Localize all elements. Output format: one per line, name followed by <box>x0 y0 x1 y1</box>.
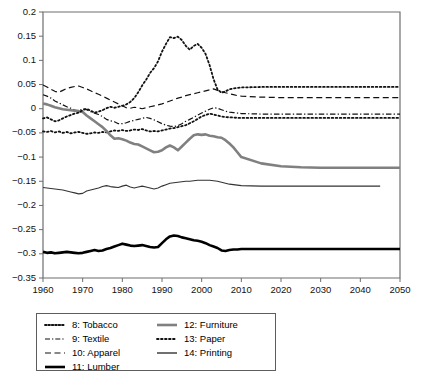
x-axis-tick-label: 2010 <box>231 284 252 295</box>
x-axis-tick-label: 1960 <box>32 284 53 295</box>
legend-label: 9: Textile <box>72 333 109 345</box>
y-axis-tick-label: −0.1 <box>17 151 36 162</box>
legend-item-apparel: 10: Apparel <box>44 347 156 359</box>
legend-label: 14: Printing <box>184 347 232 359</box>
x-axis-tick-label: 2040 <box>350 284 371 295</box>
y-axis-tick-label: 0 <box>31 102 36 113</box>
x-axis-tick-label: 2000 <box>191 284 212 295</box>
legend-swatch-dashdot-icon <box>44 334 66 344</box>
y-axis-tick-label: −0.05 <box>12 126 36 137</box>
legend-swatch-dashed-icon <box>44 348 66 358</box>
line-chart-plot: 0.20.150.10.050−0.05−0.1−0.15−0.2−0.25−0… <box>0 0 423 312</box>
legend-swatch-dotted-icon <box>156 334 178 344</box>
series-line-printing <box>43 180 380 194</box>
series-line-lumber <box>43 235 400 253</box>
y-axis-tick-label: 0.1 <box>23 54 36 65</box>
legend-item-tobacco: 8: Tobacco <box>44 319 156 331</box>
x-axis-tick-label: 2020 <box>270 284 291 295</box>
y-axis-tick-label: −0.3 <box>17 247 36 258</box>
legend-label: 12: Furniture <box>184 319 238 331</box>
legend-item-textile: 9: Textile <box>44 333 156 345</box>
legend-column-2: 12: Furniture 13: Paper 14: Printing <box>156 319 271 370</box>
legend-swatch-solid-gray-icon <box>156 320 178 330</box>
legend-item-paper: 13: Paper <box>156 333 271 345</box>
y-axis-tick-label: −0.25 <box>12 223 36 234</box>
x-axis-tick-label: 2030 <box>310 284 331 295</box>
y-axis-tick-label: −0.35 <box>12 272 36 283</box>
legend-swatch-dotted-icon <box>44 320 66 330</box>
series-line-apparel <box>43 85 400 109</box>
y-axis-tick-label: 0.2 <box>23 6 36 17</box>
series-line-paper <box>43 37 400 122</box>
legend-item-printing: 14: Printing <box>156 347 271 359</box>
legend-swatch-solid-thick-icon <box>44 362 66 372</box>
legend-label: 11: Lumber <box>72 361 119 373</box>
x-axis-tick-label: 2050 <box>389 284 410 295</box>
legend-label: 13: Paper <box>184 333 225 345</box>
legend-item-lumber: 11: Lumber <box>44 361 156 373</box>
x-axis-tick-label: 1990 <box>151 284 172 295</box>
chart-legend: 8: Tobacco 9: Textile 10: Apparel 11: Lu… <box>36 313 276 371</box>
plot-frame <box>43 12 400 278</box>
legend-item-furniture: 12: Furniture <box>156 319 271 331</box>
y-axis-tick-label: 0.05 <box>18 78 37 89</box>
x-axis-tick-label: 1980 <box>112 284 133 295</box>
legend-column-1: 8: Tobacco 9: Textile 10: Apparel 11: Lu… <box>44 319 156 370</box>
legend-swatch-solid-thin-icon <box>156 348 178 358</box>
series-line-furniture <box>43 103 400 167</box>
x-axis-tick-label: 1970 <box>72 284 93 295</box>
legend-label: 8: Tobacco <box>72 319 118 331</box>
y-axis-tick-label: 0.15 <box>18 30 37 41</box>
y-axis-tick-label: −0.2 <box>17 199 36 210</box>
legend-label: 10: Apparel <box>72 347 120 359</box>
y-axis-tick-label: −0.15 <box>12 175 36 186</box>
